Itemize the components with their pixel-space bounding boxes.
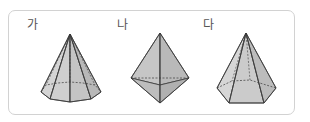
solids-drawing <box>0 0 310 122</box>
shape-da <box>217 33 276 103</box>
shape-na <box>131 33 189 103</box>
na-face-upper-left <box>131 33 160 85</box>
na-face-upper-right <box>160 33 189 85</box>
shape-ga <box>41 34 101 102</box>
